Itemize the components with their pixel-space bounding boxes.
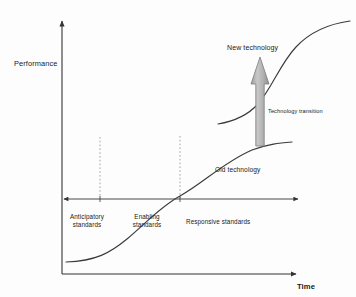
technology-transition-arrow [251, 57, 269, 146]
old-technology-label: Old technology [215, 166, 260, 174]
technology-scurve-diagram: Performance Time New technology Old tech… [0, 0, 356, 297]
region-label-responsive: Responsive standards [186, 218, 292, 226]
x-axis-label: Time [297, 282, 315, 291]
region-label-enabling: Enabling standards [124, 213, 170, 228]
new-technology-label: New technology [227, 44, 278, 53]
diagram-canvas [0, 0, 356, 297]
technology-transition-label: Technology transition [268, 108, 323, 115]
region-label-anticipatory: Anticipatory standards [63, 213, 111, 228]
y-axis-label: Performance [14, 59, 57, 68]
